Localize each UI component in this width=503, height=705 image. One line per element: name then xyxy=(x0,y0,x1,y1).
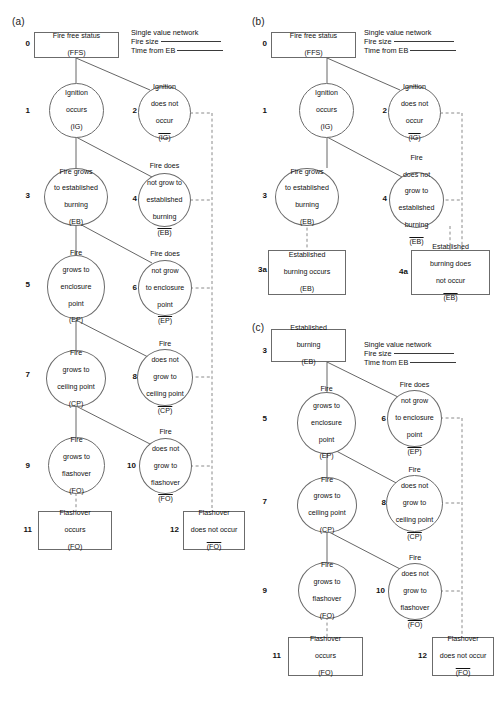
legend-row-time-from-eb: Time from EB xyxy=(364,46,456,55)
node-index-a6: 6 xyxy=(123,283,137,292)
legend-title: Single value network xyxy=(364,28,456,37)
node-c3-established-burning: Establishedburning(EB) xyxy=(271,329,346,362)
node-b3-fire-grows-established-burning: Fire growsto establishedburning(EB) xyxy=(275,168,339,226)
node-index-c9: 9 xyxy=(253,586,267,595)
node-index-a8: 8 xyxy=(123,372,137,381)
node-c6-fire-does-not-grow-enclosure-point: Fire doesnot growto enclosurepoint(EP) xyxy=(387,390,442,447)
node-index-a12: 12 xyxy=(163,525,179,534)
panel-a-legend: Single value network Fire size Time from… xyxy=(131,28,223,55)
node-index-b3a: 3a xyxy=(249,265,267,274)
node-b4-fire-does-not-grow-established-burning: Firedoes notgrow toestablishedburning(EB… xyxy=(389,172,444,228)
legend-row-time-from-eb: Time from EB xyxy=(364,358,456,367)
node-a11-flashover-occurs: Flashoveroccurs(FO) xyxy=(38,511,112,550)
legend-row-fire-size: Fire size xyxy=(131,37,223,46)
node-index-a10: 10 xyxy=(120,461,136,470)
node-a10-fire-does-not-grow-flashover: Firedoes notgrow toflashover(FO) xyxy=(139,438,192,494)
node-a4-fire-does-not-grow-established-burning: Fire doesnot grow toestablishedburning(E… xyxy=(138,173,191,227)
panel-a-label: (a) xyxy=(12,16,25,27)
node-b3a-established-burning-occurs: Establishedburning occurs(EB) xyxy=(268,250,346,295)
node-c11-flashover-occurs: Flashoveroccurs(FO) xyxy=(288,637,363,676)
panel-b-label: (b) xyxy=(252,16,265,27)
legend-row-fire-size: Fire size xyxy=(364,349,456,358)
node-index-c8: 8 xyxy=(372,498,386,507)
node-c9-fire-grows-flashover: Firegrows toflashover(FO) xyxy=(298,562,356,619)
legend-row-fire-size: Fire size xyxy=(364,37,456,46)
node-c10-fire-does-not-grow-flashover: Firedoes notgrow toflashover(FO) xyxy=(388,563,442,620)
panel-b-legend: Single value network Fire size Time from… xyxy=(364,28,456,55)
node-index-c5: 5 xyxy=(253,414,267,423)
node-index-a1: 1 xyxy=(16,106,30,115)
legend-blank-rule xyxy=(161,41,221,42)
legend-blank-rule xyxy=(394,41,454,42)
node-index-b1: 1 xyxy=(253,106,267,115)
node-c5-fire-grows-enclosure-point: Firegrows toenclosurepoint(EP) xyxy=(297,392,356,454)
node-index-a2: 2 xyxy=(123,106,137,115)
edge-b1-b4 xyxy=(327,137,402,177)
node-a9-fire-grows-flashover: Firegrows toflashover(FO) xyxy=(48,437,105,494)
node-c7-fire-grows-ceiling-point: Firegrows toceiling point(CP) xyxy=(297,477,357,533)
node-index-a0: 0 xyxy=(16,39,30,48)
node-a1-ignition-occurs: Ignitionoccurs(IG) xyxy=(49,83,104,138)
node-index-a4: 4 xyxy=(123,194,137,203)
node-index-a7: 7 xyxy=(16,370,30,379)
node-b0-fire-free-status: Fire free status(FFS) xyxy=(271,32,356,58)
node-a12-flashover-does-not-occur: Flashoverdoes not occur(FO) xyxy=(183,511,245,550)
node-a3-fire-grows-established-burning: Fire growsto establishedburning(EB) xyxy=(44,168,108,226)
node-index-a5: 5 xyxy=(16,280,30,289)
node-index-b0: 0 xyxy=(253,39,267,48)
node-b2-ignition-does-not-occur: Ignitiondoes notoccur(IG) xyxy=(388,86,441,139)
node-index-a9: 9 xyxy=(16,461,30,470)
node-c8-fire-does-not-grow-ceiling-point: Firedoes notgrow toceiling point(CP) xyxy=(386,475,443,532)
node-index-a11: 11 xyxy=(16,525,32,534)
node-a2-ignition-does-not-occur: Ignitiondoes notoccur(IG) xyxy=(138,86,191,139)
node-index-b2: 2 xyxy=(373,106,387,115)
node-index-c12: 12 xyxy=(411,651,427,660)
node-index-b4a: 4a xyxy=(390,267,408,276)
node-index-c7: 7 xyxy=(253,497,267,506)
panel-c-legend: Single value network Fire size Time from… xyxy=(364,340,456,367)
node-a8-fire-does-not-grow-ceiling-point: Firedoes notgrow toceiling point(CP) xyxy=(137,349,193,406)
node-index-a3: 3 xyxy=(16,191,30,200)
node-a5-fire-grows-enclosure-point: Firegrows toenclosurepoint(EP) xyxy=(47,255,105,319)
legend-blank-rule xyxy=(410,50,456,51)
node-c12-flashover-does-not-occur: Flashoverdoes not occur(FO) xyxy=(432,637,494,676)
node-a6-fire-does-not-grow-enclosure-point: Fire doesnot growto enclosurepoint(EP) xyxy=(138,260,192,316)
legend-row-time-from-eb: Time from EB xyxy=(131,46,223,55)
node-index-c6: 6 xyxy=(372,414,386,423)
node-index-b3: 3 xyxy=(253,191,267,200)
legend-title: Single value network xyxy=(131,28,223,37)
node-index-c11: 11 xyxy=(265,651,281,660)
node-a7-fire-grows-ceiling-point: Firegrows toceiling point(CP) xyxy=(46,350,106,407)
node-b1-ignition-occurs: Ignitionoccurs(IG) xyxy=(299,83,354,138)
legend-blank-rule xyxy=(177,50,223,51)
legend-title: Single value network xyxy=(364,340,456,349)
node-a0-fire-free-status: Fire free status(FFS) xyxy=(34,32,119,58)
node-index-c10: 10 xyxy=(369,586,385,595)
panel-c-label: (c) xyxy=(252,322,264,333)
node-b4a-established-burning-does-not-occur: Establishedburning doesnot occur(EB) xyxy=(411,250,490,295)
legend-blank-rule xyxy=(394,353,454,354)
node-index-c3: 3 xyxy=(253,346,267,355)
node-index-b4: 4 xyxy=(373,194,387,203)
legend-blank-rule xyxy=(410,362,456,363)
